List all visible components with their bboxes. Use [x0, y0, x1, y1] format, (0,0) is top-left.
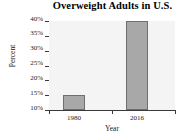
x-tick-mark-mid [112, 110, 113, 114]
y-tick-mark-30 [45, 51, 49, 52]
y-tick-mark-25 [45, 66, 49, 67]
y-tick-label-20: 20% [30, 75, 43, 82]
y-axis-title: Percent [9, 31, 17, 81]
y-tick-label-40: 40% [30, 16, 43, 23]
bar-1980 [63, 95, 85, 110]
y-tick-mark-15 [45, 95, 49, 96]
y-tick-mark-40 [45, 21, 49, 22]
y-tick-label-35: 35% [30, 30, 43, 37]
y-tick-mark-20 [45, 80, 49, 81]
y-tick-35: 35% [0, 36, 49, 37]
y-tick-15: 15% [0, 95, 49, 96]
bar-2016 [126, 21, 148, 110]
y-tick-mark-35 [45, 36, 49, 37]
y-tick-40: 40% [0, 21, 49, 22]
y-tick-20: 20% [0, 80, 49, 81]
y-tick-10: 10% [0, 110, 49, 111]
chart-title: Overweight Adults in U.S. [40, 0, 185, 11]
y-tick-label-10: 10% [30, 105, 43, 112]
y-tick-label-15: 15% [30, 90, 43, 97]
y-tick-label-30: 30% [30, 45, 43, 52]
x-tick-label-2016: 2016 [117, 114, 157, 122]
x-tick-mark-left [49, 110, 50, 114]
x-tick-mark-right [175, 110, 176, 114]
chart-figure: Overweight Adults in U.S. 40% 35% 30% 25… [0, 0, 185, 140]
y-tick-label-25: 25% [30, 60, 43, 67]
plot-area [49, 21, 175, 110]
x-tick-label-1980: 1980 [54, 114, 94, 122]
x-axis-title: Year [49, 125, 175, 133]
